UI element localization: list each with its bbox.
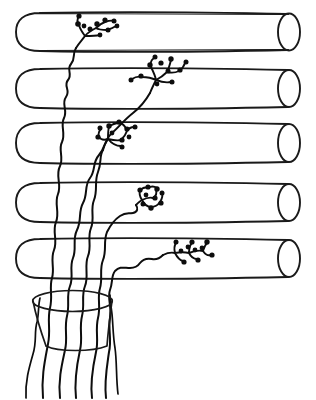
figure-canvas: Schematic of afferent fibers ascending t… xyxy=(0,0,316,400)
arbor-5-bouton xyxy=(195,257,200,262)
arbor-4-bouton xyxy=(152,195,157,200)
arbor-3-bouton xyxy=(98,126,103,131)
arbor-3-bouton xyxy=(127,135,132,140)
arbor-2-bouton xyxy=(170,80,175,85)
arbor-1-bouton xyxy=(82,24,87,29)
arbor-1-bouton xyxy=(76,13,81,18)
arbor-2-bouton xyxy=(138,73,143,78)
arbor-5-bouton xyxy=(179,249,184,254)
arbor-5-bouton xyxy=(189,239,194,244)
arbor-4-bouton xyxy=(148,205,153,210)
arbor-1-bouton xyxy=(115,24,120,29)
arbor-4-bouton xyxy=(137,187,142,192)
arbor-1-bouton xyxy=(94,21,99,26)
arbor-3-bouton xyxy=(133,125,138,130)
arbor-4-bouton xyxy=(160,191,165,196)
arbor-1-bouton xyxy=(88,27,93,32)
arbor-2-bouton xyxy=(129,78,134,83)
arbor-3-bouton xyxy=(116,119,121,124)
arbor-5-bouton xyxy=(174,240,179,245)
arbor-4-bouton xyxy=(144,193,149,198)
arbor-5-bouton xyxy=(200,246,205,251)
arbor-1-bouton xyxy=(112,19,117,24)
diagram-svg xyxy=(0,0,316,400)
arbor-3-bouton xyxy=(124,126,129,131)
arbor-3-bouton xyxy=(110,131,115,136)
arbor-2-bouton xyxy=(177,67,182,72)
arbor-1-bouton xyxy=(102,17,107,22)
arbor-4-bouton xyxy=(141,202,146,207)
arbor-1-bouton xyxy=(98,33,103,38)
arbor-3-bouton xyxy=(106,123,111,128)
arbor-2-bouton xyxy=(168,56,173,61)
arbor-5-bouton xyxy=(209,252,214,257)
arbor-1-bouton xyxy=(106,28,111,33)
arbor-2-bouton xyxy=(147,62,152,67)
arbor-4-bouton xyxy=(158,200,163,205)
arbor-2-bouton xyxy=(166,69,171,74)
arbor-2-bouton xyxy=(158,60,163,65)
arbor-4-bouton xyxy=(145,184,150,189)
arbor-3-bouton xyxy=(119,137,124,142)
arbor-1-bouton xyxy=(75,21,81,27)
arbor-2-bouton xyxy=(155,82,160,87)
arbor-5-bouton xyxy=(186,245,191,250)
arbor-5-bouton xyxy=(204,239,209,244)
arbor-5-bouton xyxy=(193,248,198,253)
background xyxy=(0,0,316,400)
arbor-3-bouton xyxy=(95,134,100,139)
arbor-2-bouton xyxy=(184,60,189,65)
arbor-4-bouton xyxy=(154,186,159,191)
arbor-5-bouton xyxy=(181,259,186,264)
arbor-3-bouton xyxy=(120,145,125,150)
arbor-2-bouton xyxy=(153,55,158,60)
